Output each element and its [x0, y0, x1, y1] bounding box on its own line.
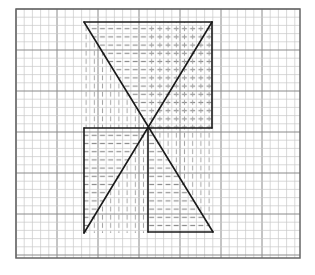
grid-diagram — [0, 0, 315, 275]
